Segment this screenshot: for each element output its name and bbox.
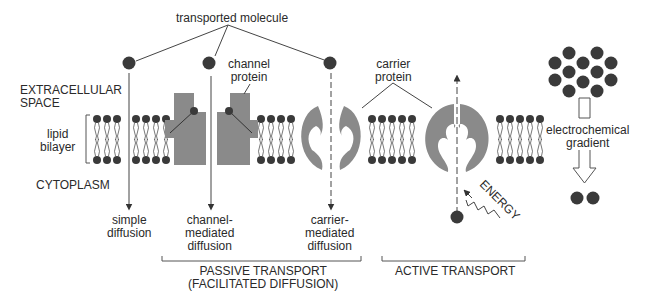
active-transport-bracket [382, 256, 525, 261]
cytoplasm-label: CYTOPLASM [36, 179, 110, 192]
diagram-canvas: ENERGY [0, 0, 646, 303]
energy-icon: ENERGY [466, 177, 523, 223]
passive-transport-bracket [162, 256, 361, 261]
molecule-simple [123, 57, 136, 70]
high-concentration-cluster [549, 47, 618, 98]
energy-label: ENERGY [477, 177, 523, 223]
active-transport-label: ACTIVE TRANSPORT [395, 265, 515, 278]
transported-molecule-label: transported molecule [176, 12, 288, 25]
channel-protein-pointer [244, 84, 250, 94]
passive-transport-label: PASSIVE TRANSPORT (FACILITATED DIFFUSION… [188, 265, 338, 291]
carrier-protein-label: carrier protein [375, 58, 412, 84]
low-concentration-molecules [571, 192, 600, 205]
molecule-carrier [324, 57, 337, 70]
bilayer-bracket [86, 115, 90, 163]
molecule-active [451, 211, 464, 224]
transported-molecule-pointers [136, 25, 327, 61]
lipid-bilayer-label: lipid bilayer [40, 128, 75, 154]
carrier-mediated-diffusion-label: carrier- mediated diffusion [305, 214, 354, 253]
molecule-channel [203, 57, 216, 70]
channel-mediated-diffusion-label: channel- mediated diffusion [185, 214, 234, 253]
electrochemical-gradient-label: electrochemical gradient [546, 124, 629, 150]
simple-diffusion-label: simple diffusion [107, 214, 151, 240]
carrier-protein-pointers [362, 83, 432, 108]
extracellular-space-label: EXTRACELLULAR SPACE [20, 84, 122, 110]
channel-protein-label: channel protein [228, 58, 270, 84]
membrane-transport-diagram: ENERGY [0, 0, 646, 303]
